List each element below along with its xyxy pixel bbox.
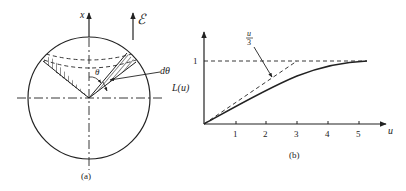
theta-arc-icon bbox=[89, 77, 101, 83]
x-tick-label: 2 bbox=[263, 129, 268, 139]
L-curve bbox=[204, 61, 367, 124]
field-label: ℰ bbox=[137, 12, 147, 27]
annotation-numerator: u bbox=[247, 29, 251, 38]
x-tick-label: 1 bbox=[233, 129, 238, 139]
figure-canvas: x ℰ θ dθ (a) 1 L(u) u 1 2 3 4 bbox=[0, 0, 406, 191]
caption-b: (b) bbox=[289, 150, 300, 160]
x-tick-label: 4 bbox=[325, 129, 330, 139]
dtheta-label: dθ bbox=[160, 65, 170, 76]
theta-label: θ bbox=[95, 67, 100, 77]
x-tick-label: 3 bbox=[294, 129, 299, 139]
annotation-arrow-icon bbox=[254, 47, 272, 77]
u-over-3-line bbox=[204, 61, 297, 124]
figure-b: 1 L(u) u 1 2 3 4 5 u 3 (b) bbox=[171, 29, 393, 160]
x-tick-label: 5 bbox=[356, 129, 361, 139]
y-tick-1: 1 bbox=[193, 56, 198, 66]
caption-a: (a) bbox=[81, 171, 91, 181]
x-axis-label: x bbox=[79, 9, 85, 20]
x-axis-label: u bbox=[388, 125, 393, 136]
figure-a: x ℰ θ dθ (a) bbox=[17, 9, 170, 181]
annotation-denominator: 3 bbox=[247, 38, 251, 47]
left-hatched-wedge bbox=[43, 56, 89, 98]
y-axis-label: L(u) bbox=[171, 82, 190, 94]
